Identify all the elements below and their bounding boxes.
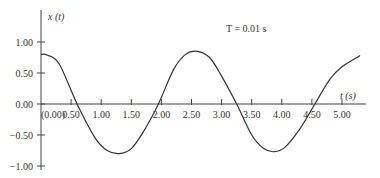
x-tick-label: 2.50 bbox=[183, 109, 201, 120]
x-ticks: (0.00)0.501.001.502.002.503.003.504.004.… bbox=[41, 99, 351, 121]
x-axis-label: t (s) bbox=[340, 90, 357, 102]
sampling-period-annotation: T = 0.01 s bbox=[226, 23, 267, 34]
x-tick-label: 3.00 bbox=[213, 109, 231, 120]
x-tick-label: 1.50 bbox=[123, 109, 141, 120]
x-tick-label: 0.50 bbox=[62, 109, 80, 120]
y-ticks: 1.000.500.00−0.50−1.00 bbox=[10, 37, 45, 172]
x-tick-label: 3.50 bbox=[243, 109, 261, 120]
y-tick-label: −1.00 bbox=[10, 161, 33, 172]
y-tick-label: 1.00 bbox=[16, 37, 34, 48]
x-tick-label: 5.00 bbox=[333, 109, 351, 120]
x-tick-label: 4.00 bbox=[273, 109, 291, 120]
line-chart: 1.000.500.00−0.50−1.00 (0.00)0.501.001.5… bbox=[0, 0, 380, 178]
y-axis-label: x (t) bbox=[47, 11, 65, 23]
y-tick-label: −0.50 bbox=[10, 130, 33, 141]
y-tick-label: 0.00 bbox=[16, 99, 34, 110]
x-tick-label: 1.00 bbox=[92, 109, 110, 120]
y-tick-label: 0.50 bbox=[16, 68, 34, 79]
